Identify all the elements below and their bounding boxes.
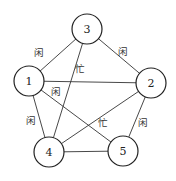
node-label: 3: [84, 23, 91, 36]
node-label: 1: [26, 75, 33, 88]
edge-label-2-5: 闲: [138, 117, 148, 128]
nodes: 12345: [14, 14, 166, 167]
node-4: 4: [34, 137, 64, 167]
node-1: 1: [14, 66, 44, 96]
edge-label-1-4: 闲: [26, 115, 36, 126]
edge-labels: 闲闲忙闲闲忙闲: [26, 46, 148, 128]
edge-label-3-4: 忙: [75, 63, 85, 74]
graph-diagram: 闲闲忙闲闲忙闲 12345: [0, 0, 176, 181]
edge-label-2-4: 忙: [98, 117, 108, 128]
edges: [29, 29, 151, 152]
node-label: 5: [120, 145, 127, 158]
edge-1-2: [29, 81, 151, 83]
edge-label-1-5: 闲: [51, 86, 61, 97]
node-label: 2: [148, 77, 155, 90]
edge-label-1-3: 闲: [34, 47, 44, 58]
edge-label-3-2: 闲: [118, 46, 128, 57]
node-3: 3: [72, 14, 102, 44]
node-5: 5: [108, 136, 138, 166]
node-2: 2: [136, 68, 166, 98]
node-label: 4: [46, 146, 53, 159]
